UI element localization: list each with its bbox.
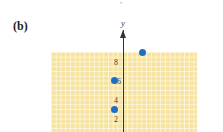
data-point [139,49,146,56]
top-fragment: , [120,0,122,5]
y-axis-arrow-icon [120,30,126,38]
y-axis [123,30,124,132]
y-tick-4: 4 [114,96,118,105]
y-tick-8: 8 [114,58,118,67]
y-tick-2: 2 [114,115,118,124]
data-point [111,77,118,84]
data-point [111,106,118,113]
panel-label: (b) [13,19,28,34]
y-axis-label: y [121,18,125,28]
plot-grid [51,52,197,132]
